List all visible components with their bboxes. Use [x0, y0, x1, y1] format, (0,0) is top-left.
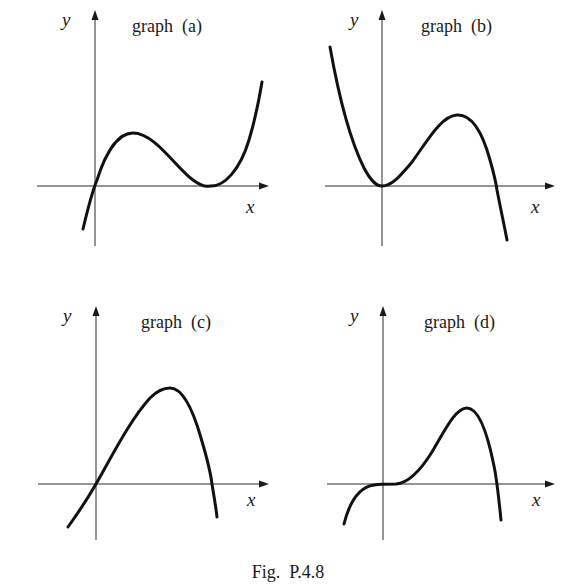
x-axis-label-a: x — [245, 196, 255, 217]
panel-title-b: graph (b) — [421, 16, 492, 37]
x-axis-label-b: x — [530, 196, 540, 217]
x-axis-label-c: x — [246, 489, 256, 510]
panel-title-c: graph (c) — [141, 312, 211, 333]
panel-title-d: graph (d) — [424, 312, 495, 333]
figure-background — [0, 0, 576, 584]
panel-title-a: graph (a) — [132, 16, 202, 37]
y-axis-label-a: y — [60, 9, 71, 30]
y-axis-label-b: y — [348, 9, 359, 30]
figure-caption: Fig. P.4.8 — [252, 562, 325, 582]
y-axis-label-d: y — [348, 305, 359, 326]
figure-canvas: y x graph (a) y x graph (b) y x graph (c… — [0, 0, 576, 584]
y-axis-label-c: y — [61, 305, 72, 326]
x-axis-label-d: x — [531, 489, 541, 510]
